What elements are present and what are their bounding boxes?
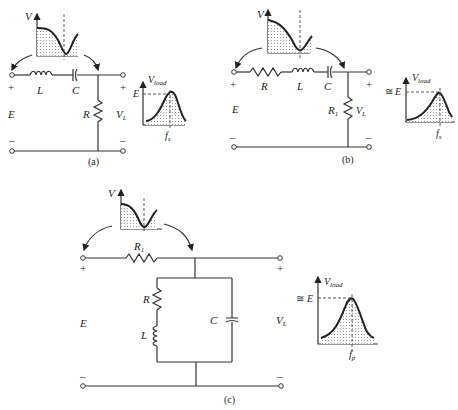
inductor-l xyxy=(30,71,52,75)
svg-text:R: R xyxy=(142,293,150,305)
svg-text:R1: R1 xyxy=(327,104,338,118)
svg-text:R1: R1 xyxy=(133,240,144,254)
caption-a: (a) xyxy=(88,156,99,168)
response-curve-c: Vload ≅ E fp xyxy=(296,276,378,362)
svg-text:–: – xyxy=(119,134,126,146)
svg-text:+: + xyxy=(8,81,14,93)
circuit-c: V + + – – R1 R L C E VL (c) xyxy=(79,187,378,406)
resistor-r xyxy=(94,100,102,122)
svg-text:–: – xyxy=(276,370,283,382)
svg-text:L: L xyxy=(296,80,303,92)
svg-text:+: + xyxy=(80,262,86,274)
caption-b: (b) xyxy=(342,154,354,166)
svg-text:E: E xyxy=(132,88,139,99)
capacitor-c xyxy=(226,318,238,322)
svg-text:–: – xyxy=(79,370,86,382)
svg-text:L: L xyxy=(36,84,43,96)
svg-text:E: E xyxy=(79,317,87,329)
svg-text:E: E xyxy=(231,103,239,115)
svg-text:fs: fs xyxy=(436,128,442,141)
response-curve-a: Vload E fs xyxy=(132,74,186,143)
svg-text:+: + xyxy=(277,262,283,274)
circuit-b: V + + – – R L C R1 VL E (b) xyxy=(229,8,455,166)
inductor-l xyxy=(153,326,157,346)
input-spectrum-a: V xyxy=(12,10,98,70)
svg-text:+: + xyxy=(366,78,372,90)
svg-text:C: C xyxy=(324,80,332,92)
output-label-vl: VL xyxy=(116,108,127,122)
svg-text:VL: VL xyxy=(356,105,366,118)
svg-text:+: + xyxy=(230,78,236,90)
svg-text:–: – xyxy=(8,134,15,146)
svg-text:R: R xyxy=(82,108,90,120)
caption-c: (c) xyxy=(224,394,235,406)
resistor-r1 xyxy=(344,97,352,119)
circuit-a: V + + – – L C R E VL (a) xyxy=(7,10,186,168)
capacitor-c xyxy=(328,66,332,78)
svg-text:C: C xyxy=(210,314,218,326)
svg-text:fs: fs xyxy=(165,130,171,143)
svg-text:Vload: Vload xyxy=(148,74,167,87)
svg-text:V: V xyxy=(108,187,116,199)
input-spectrum-b: V xyxy=(236,8,344,68)
svg-text:–: – xyxy=(365,131,372,143)
svg-text:C: C xyxy=(72,84,80,96)
inductor-l xyxy=(292,68,314,72)
terminal-plus-in xyxy=(10,73,15,78)
source-label-e: E xyxy=(7,108,15,120)
svg-text:R: R xyxy=(260,80,268,92)
svg-text:Vload: Vload xyxy=(324,276,343,289)
svg-text:L: L xyxy=(140,329,147,341)
svg-text:≅: ≅ xyxy=(385,86,393,97)
svg-text:+: + xyxy=(120,81,126,93)
svg-text:–: – xyxy=(229,131,236,143)
resistor-r xyxy=(250,68,281,76)
svg-text:VL: VL xyxy=(276,314,287,328)
svg-text:E: E xyxy=(394,86,401,97)
resistor-r1 xyxy=(126,254,157,262)
capacitor-c xyxy=(73,69,77,81)
response-curve-b: Vload ≅ E fs xyxy=(385,72,455,141)
svg-text:Vload: Vload xyxy=(412,72,431,85)
svg-text:E: E xyxy=(306,293,313,304)
axis-label-v: V xyxy=(25,10,33,22)
svg-text:V: V xyxy=(257,8,265,20)
svg-text:≅: ≅ xyxy=(296,293,304,304)
resistor-r xyxy=(153,288,161,310)
